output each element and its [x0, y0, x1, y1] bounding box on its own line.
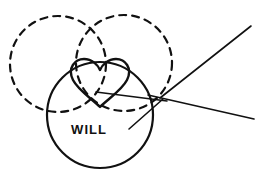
canvas-background [0, 0, 263, 176]
diagram-canvas: WILL [0, 0, 263, 176]
will-label: WILL [71, 122, 107, 137]
line-drawing: WILL [0, 0, 263, 176]
